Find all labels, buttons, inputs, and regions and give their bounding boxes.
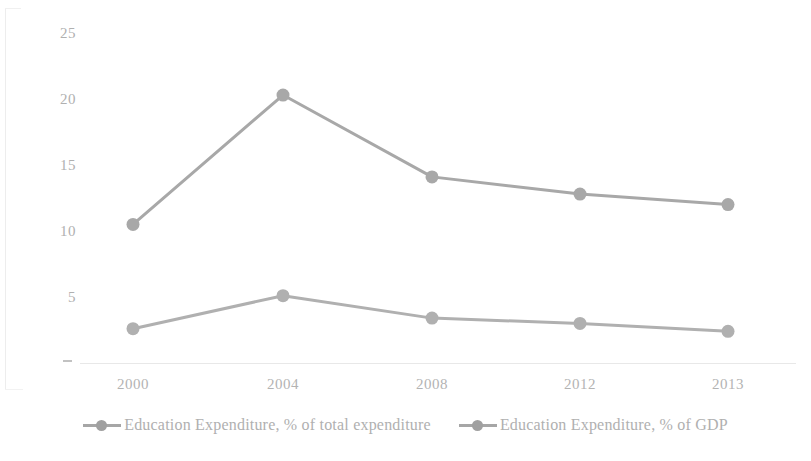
legend-line-marker-icon (83, 418, 121, 432)
x-axis-tick-label: 2000 (117, 376, 149, 393)
series-line-education-expenditure-gdp (127, 289, 735, 338)
x-axis-tick-label: 2012 (564, 376, 596, 393)
data-point-marker[interactable] (574, 188, 587, 201)
x-axis: 2000 2004 2008 2012 2013 (0, 376, 811, 402)
data-point-marker[interactable] (426, 170, 439, 183)
legend-line-marker-icon (459, 418, 497, 432)
x-axis-tick-label: 2008 (416, 376, 448, 393)
series-line-education-expenditure-total (127, 89, 735, 231)
legend-item-label: Education Expenditure, % of total expend… (124, 416, 431, 434)
data-point-marker[interactable] (127, 218, 140, 231)
line-chart: 25 20 15 10 5 2000 2004 2008 2012 2013 E… (0, 0, 811, 461)
data-point-marker[interactable] (722, 325, 735, 338)
data-point-marker[interactable] (574, 317, 587, 330)
legend-item-gdp[interactable]: Education Expenditure, % of GDP (459, 416, 728, 434)
x-axis-tick-label: 2013 (712, 376, 744, 393)
data-point-marker[interactable] (722, 198, 735, 211)
legend-item-total-expenditure[interactable]: Education Expenditure, % of total expend… (83, 416, 431, 434)
data-point-marker[interactable] (277, 289, 290, 302)
data-point-marker[interactable] (426, 312, 439, 325)
x-axis-tick-label: 2004 (267, 376, 299, 393)
data-point-marker[interactable] (127, 322, 140, 335)
data-point-marker[interactable] (277, 89, 290, 102)
series-line (133, 95, 728, 224)
chart-legend: Education Expenditure, % of total expend… (0, 416, 811, 434)
legend-item-label: Education Expenditure, % of GDP (500, 416, 728, 434)
